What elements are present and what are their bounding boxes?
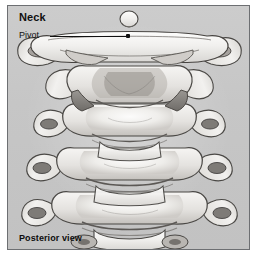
annotation-leader-dot-pivot — [126, 34, 130, 38]
annotation-label-pivot: Pivot — [19, 30, 39, 41]
vertebra-atlas — [18, 11, 242, 66]
page-title: Neck — [19, 11, 46, 24]
figure-caption: Posterior view — [19, 233, 82, 244]
figure-panel: Neck Pivot Posterior view — [0, 0, 260, 263]
annotation-leader-line-pivot — [50, 36, 128, 37]
cervical-vertebrae-illustration — [8, 6, 250, 250]
figure-frame: Neck Pivot Posterior view — [7, 5, 250, 250]
